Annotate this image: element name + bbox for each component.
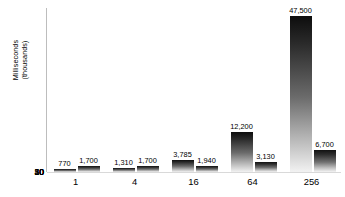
bar-256-series-2[interactable]: 6,700 [314,8,336,172]
bar-64-series-1[interactable]: 12,200 [231,8,253,172]
bar-1-series-2[interactable]: 1,700 [78,8,100,172]
x-axis-tick-64: 64 [247,176,257,187]
bar-16-series-1[interactable]: 3,785 [172,8,194,172]
bar-fill [113,168,135,172]
x-axis-tick-labels: 141664256 [46,176,341,194]
bar-value-label: 1,310 [114,158,133,167]
bar-fill [314,150,336,172]
bar-64-series-2[interactable]: 3,130 [255,8,277,172]
y-axis-tick-labels: 01020304050 [20,0,44,197]
bar-value-label: 770 [58,159,70,168]
bar-value-label: 3,130 [256,152,275,161]
x-axis-tick-256: 256 [304,176,320,187]
bar-value-label: 1,700 [138,156,157,165]
x-axis-tick-1: 1 [73,176,78,187]
bar-value-label: 1,700 [79,156,98,165]
bar-value-label: 12,200 [230,122,253,131]
bar-16-series-2[interactable]: 1,940 [196,8,218,172]
bar-4-series-1[interactable]: 1,310 [113,8,135,172]
bar-fill [231,132,253,172]
y-axis-tick-50: 50 [24,167,44,177]
x-axis-tick-4: 4 [132,176,137,187]
plot-area: 7701,7001,3101,7003,7851,94012,2003,1304… [46,8,341,172]
bar-fill [137,166,159,172]
bar-fill [196,166,218,172]
bar-fill [290,16,312,172]
bar-fill [255,162,277,172]
x-axis-tick-16: 16 [188,176,198,187]
bar-value-label: 6,700 [315,140,334,149]
bar-value-label: 1,940 [197,156,216,165]
bar-value-label: 47,500 [289,6,312,15]
bar-group-64: 12,2003,130 [224,8,283,172]
bar-group-1: 7701,700 [47,8,106,172]
bar-chart: Milliseconds (thousands) 01020304050 770… [0,0,345,197]
bar-value-label: 3,785 [173,150,192,159]
bar-fill [54,169,76,172]
bar-fill [78,166,100,172]
bar-fill [172,160,194,172]
bar-1-series-1[interactable]: 770 [54,8,76,172]
bar-series-container: 7701,7001,3101,7003,7851,94012,2003,1304… [47,8,341,172]
bar-group-16: 3,7851,940 [165,8,224,172]
bar-group-256: 47,5006,700 [283,8,342,172]
bar-256-series-1[interactable]: 47,500 [290,8,312,172]
bar-group-4: 1,3101,700 [106,8,165,172]
bar-4-series-2[interactable]: 1,700 [137,8,159,172]
